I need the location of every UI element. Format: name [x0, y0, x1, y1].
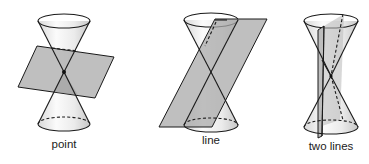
cutting-plane [159, 19, 267, 127]
panel-point: point [18, 14, 114, 150]
label-two-lines: two lines [309, 140, 354, 152]
label-point: point [52, 138, 78, 150]
panel-two-lines: two lines [304, 14, 358, 152]
intersection-point [62, 70, 66, 74]
apex [329, 74, 332, 77]
label-line: line [202, 134, 220, 146]
panel-line: line [159, 13, 267, 146]
conic-diagram: point line [0, 0, 369, 164]
